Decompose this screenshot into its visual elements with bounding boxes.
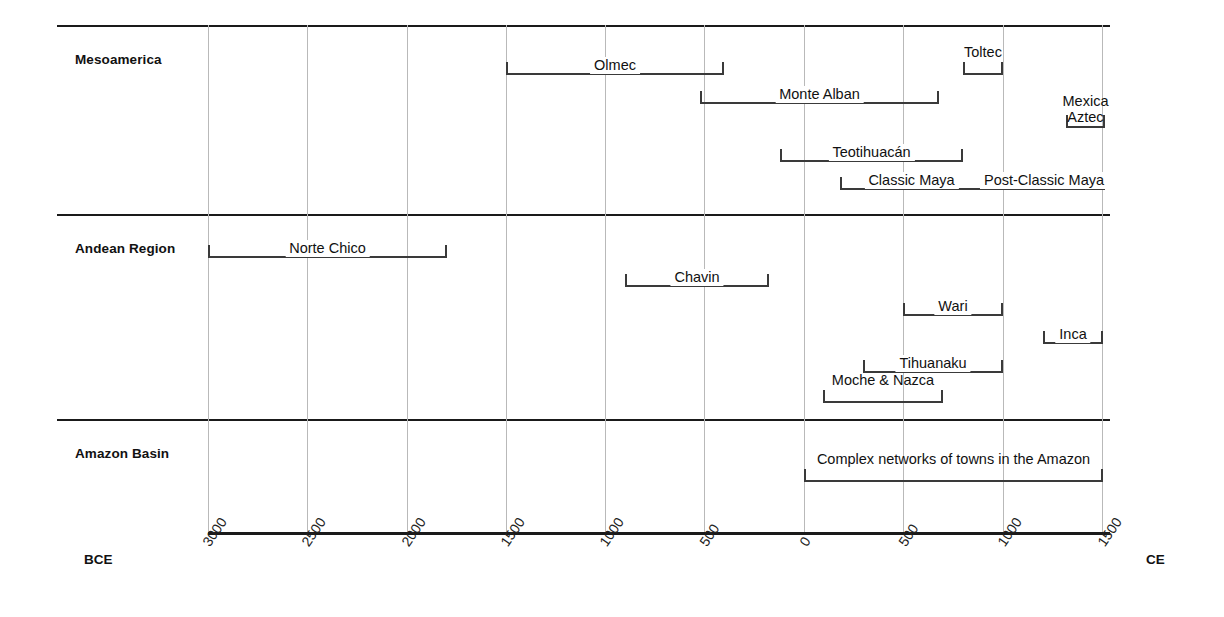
era-label-post-classic-maya: Post-Classic Maya <box>980 172 1108 189</box>
x-tick-label-500-bce: 500 <box>696 521 723 549</box>
era-bar-monte-alban: Monte Alban <box>700 82 939 104</box>
top-rule <box>57 25 1110 27</box>
era-label-norte-chico: Norte Chico <box>285 240 370 257</box>
era-bar-chavin: Chavin <box>625 265 769 287</box>
era-span-line <box>963 73 1003 75</box>
era-bar-inca: Inca <box>1043 322 1103 344</box>
era-bar-wari: Wari <box>903 294 1003 316</box>
gridline-2500-bce <box>307 25 308 533</box>
gridline-3000-bce <box>208 25 209 533</box>
era-label-toltec: Toltec <box>964 44 1002 61</box>
era-label-mexica: Mexica <box>1063 93 1109 109</box>
era-label-monte-alban: Monte Alban <box>775 86 864 103</box>
row-label-andean-region: Andean Region <box>75 241 175 256</box>
gridline-1500-bce <box>506 25 507 533</box>
era-bar-mexica-aztec: Mexica Aztec <box>1066 106 1105 128</box>
era-label-aztec: Aztec <box>1063 109 1109 125</box>
x-axis-line <box>208 532 1110 535</box>
row-separator-2 <box>57 419 1110 421</box>
axis-label-bce: BCE <box>84 552 113 567</box>
x-tick-label-0: 0 <box>796 534 814 550</box>
era-label-teotihuacan: Teotihuacán <box>828 144 914 161</box>
era-label-chavin: Chavin <box>670 269 723 286</box>
era-bar-post-classic-maya: Post-Classic Maya <box>983 168 1105 190</box>
era-bar-tihuanaku: Tihuanaku <box>863 351 1003 373</box>
era-label-moche-nazca: Moche & Nazca <box>832 372 934 389</box>
era-bar-olmec: Olmec <box>506 53 724 75</box>
era-label-inca: Inca <box>1055 326 1090 343</box>
era-bar-teotihuacan: Teotihuacán <box>780 140 963 162</box>
era-label-amazon-networks: Complex networks of towns in the Amazon <box>817 451 1090 468</box>
row-label-mesoamerica: Mesoamerica <box>75 52 162 67</box>
row-separator-1 <box>57 214 1110 216</box>
era-label-classic-maya: Classic Maya <box>864 172 958 189</box>
era-bar-norte-chico: Norte Chico <box>208 236 447 258</box>
row-label-amazon-basin: Amazon Basin <box>75 446 169 461</box>
era-span-line <box>823 401 943 403</box>
era-span-line <box>804 480 1103 482</box>
era-label-mexica-aztec: Mexica Aztec <box>1063 93 1109 125</box>
x-tick-label-500-ce: 500 <box>895 521 922 549</box>
era-label-wari: Wari <box>934 298 971 315</box>
era-bar-toltec: Toltec <box>963 53 1003 75</box>
axis-label-ce: CE <box>1146 552 1165 567</box>
era-label-tihuanaku: Tihuanaku <box>895 355 970 372</box>
era-bar-classic-maya: Classic Maya <box>840 168 983 190</box>
era-bar-amazon-networks: Complex networks of towns in the Amazon <box>804 460 1103 482</box>
gridline-1000-bce <box>605 25 606 533</box>
timeline-chart: Mesoamerica Olmec Monte Alban Toltec Mex… <box>0 0 1224 617</box>
era-span-line <box>1066 126 1105 128</box>
x-tick-label-1500-ce: 1500 <box>1094 514 1125 549</box>
era-bar-moche-nazca: Moche & Nazca <box>823 381 943 403</box>
gridline-2000-bce <box>407 25 408 533</box>
era-label-olmec: Olmec <box>590 57 640 74</box>
